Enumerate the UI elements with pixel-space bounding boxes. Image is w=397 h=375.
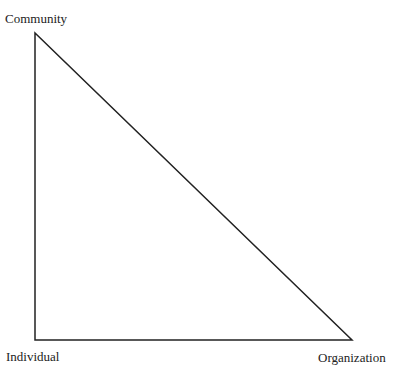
- triangle-svg: [0, 0, 397, 375]
- triangle-shape: [35, 33, 352, 340]
- vertex-label-individual: Individual: [6, 350, 59, 363]
- vertex-label-community: Community: [5, 12, 67, 25]
- triangle-diagram: Community Individual Organization: [0, 0, 397, 375]
- vertex-label-organization: Organization: [318, 351, 386, 364]
